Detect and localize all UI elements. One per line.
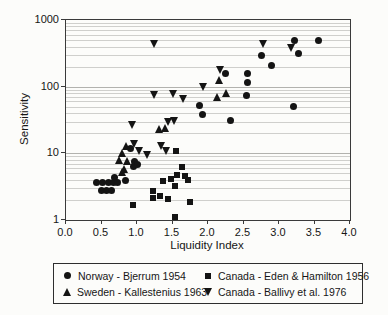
gridline bbox=[66, 47, 350, 48]
data-point bbox=[259, 40, 267, 48]
legend-item: Norway - Bjerrum 1954 bbox=[63, 270, 203, 282]
data-point bbox=[216, 66, 224, 74]
gridline-major bbox=[66, 87, 350, 88]
y-axis-tick-label: 1 bbox=[27, 213, 59, 225]
data-point bbox=[287, 44, 295, 52]
x-axis-tick-label: 2.5 bbox=[226, 226, 260, 238]
data-point bbox=[157, 193, 163, 199]
data-point bbox=[244, 70, 251, 77]
data-point bbox=[128, 121, 136, 129]
data-point bbox=[120, 165, 128, 173]
data-point bbox=[130, 202, 136, 208]
legend-label: Sweden - Kallestenius 1963 bbox=[77, 286, 207, 298]
x-axis-tick bbox=[243, 220, 244, 224]
data-point bbox=[134, 161, 141, 168]
data-point bbox=[243, 92, 250, 99]
data-point bbox=[290, 103, 297, 110]
data-point bbox=[196, 102, 203, 109]
gridline bbox=[66, 40, 350, 41]
plot-area bbox=[65, 19, 351, 221]
circle-icon-shape bbox=[64, 272, 71, 279]
data-point bbox=[179, 164, 185, 170]
x-axis-tick bbox=[101, 220, 102, 224]
data-point bbox=[199, 83, 207, 91]
data-point bbox=[268, 62, 275, 69]
data-point bbox=[165, 196, 171, 202]
x-axis-tick-label: 3.5 bbox=[297, 226, 331, 238]
gridline bbox=[66, 90, 350, 91]
data-point bbox=[174, 172, 180, 178]
y-axis-tick-label: 100 bbox=[27, 80, 59, 92]
data-point bbox=[291, 37, 298, 44]
data-point bbox=[123, 157, 131, 165]
square-icon-shape bbox=[205, 273, 211, 279]
data-point bbox=[227, 117, 234, 124]
chart-figure: Sensitivity Liquidity Index Norway - Bje… bbox=[0, 0, 388, 315]
data-point bbox=[173, 148, 179, 154]
data-point bbox=[215, 76, 223, 84]
data-point bbox=[315, 37, 322, 44]
data-point bbox=[162, 147, 170, 155]
gridline-major bbox=[66, 153, 350, 154]
y-axis-tick bbox=[61, 86, 65, 87]
square-icon bbox=[203, 273, 212, 279]
gridline bbox=[66, 200, 350, 201]
x-axis-tick bbox=[349, 220, 350, 224]
data-point bbox=[122, 142, 130, 150]
x-axis-tick-label: 1.0 bbox=[119, 226, 153, 238]
legend-item: Canada - Eden & Hamilton 1956 bbox=[203, 270, 369, 282]
data-point bbox=[122, 177, 129, 184]
y-axis-tick bbox=[61, 19, 65, 20]
x-axis-title: Liquidity Index bbox=[170, 239, 244, 251]
data-point bbox=[185, 177, 191, 183]
legend-item: Canada - Ballivy et al. 1976 bbox=[203, 286, 369, 298]
y-axis-title: Sensitivity bbox=[18, 93, 30, 145]
y-axis-tick bbox=[61, 152, 65, 153]
circle-icon bbox=[63, 272, 72, 279]
triangle-down-icon bbox=[203, 288, 212, 296]
data-point bbox=[150, 195, 156, 201]
gridline bbox=[66, 168, 350, 169]
x-axis-tick-label: 2.0 bbox=[190, 226, 224, 238]
legend-label: Canada - Ballivy et al. 1976 bbox=[218, 286, 346, 298]
triangle-up-icon bbox=[63, 288, 71, 296]
gridline bbox=[66, 164, 350, 165]
gridline bbox=[66, 133, 350, 134]
gridline bbox=[66, 160, 350, 161]
gridline bbox=[66, 35, 350, 36]
gridline bbox=[66, 26, 350, 27]
data-point bbox=[199, 111, 206, 118]
data-point bbox=[111, 174, 118, 181]
data-point bbox=[150, 188, 156, 194]
gridline bbox=[66, 23, 350, 24]
gridline bbox=[66, 107, 350, 108]
gridline bbox=[66, 113, 350, 114]
x-axis-tick-label: 0.0 bbox=[48, 226, 82, 238]
x-axis-tick-label: 1.5 bbox=[155, 226, 189, 238]
data-point bbox=[170, 117, 178, 125]
triangle-up-icon-shape bbox=[63, 288, 71, 296]
x-axis-tick bbox=[172, 220, 173, 224]
x-axis-tick-label: 0.5 bbox=[84, 226, 118, 238]
data-point bbox=[222, 89, 230, 97]
x-axis-tick bbox=[314, 220, 315, 224]
data-point bbox=[150, 91, 158, 99]
gridline bbox=[66, 122, 350, 123]
legend-item: Sweden - Kallestenius 1963 bbox=[63, 286, 203, 298]
data-point bbox=[187, 199, 193, 205]
gridline bbox=[66, 55, 350, 56]
gridline bbox=[66, 101, 350, 102]
legend-label: Canada - Eden & Hamilton 1956 bbox=[218, 270, 369, 282]
data-point bbox=[169, 90, 177, 98]
gridline bbox=[66, 93, 350, 94]
gridline bbox=[66, 67, 350, 68]
x-axis-tick bbox=[65, 220, 66, 224]
x-axis-tick bbox=[278, 220, 279, 224]
y-axis-tick-label: 1000 bbox=[27, 13, 59, 25]
x-axis-tick-label: 4.0 bbox=[332, 226, 366, 238]
gridline bbox=[66, 30, 350, 31]
data-point bbox=[258, 52, 265, 59]
data-point bbox=[172, 214, 178, 220]
y-axis-tick-label: 10 bbox=[27, 146, 59, 158]
data-point bbox=[213, 93, 221, 101]
